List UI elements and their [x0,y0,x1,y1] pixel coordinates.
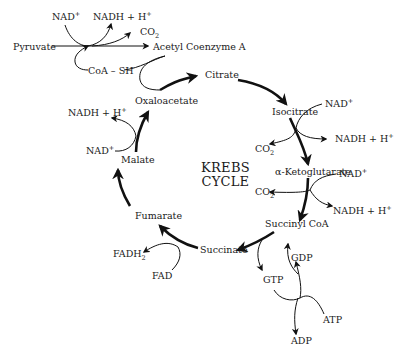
entry-nadh-label: NADH + H+ [93,12,152,22]
akg-side-arrows [270,174,336,206]
gdp-label: GDP [291,253,313,263]
fumarate-to-malate-arrow [118,170,130,206]
fadh2-label: FADH2 [113,249,146,259]
akg-nad-label: NAD+ [339,169,367,179]
adp-label: ADP [291,336,312,346]
succinate-label: Succinate [200,245,248,255]
citrate-to-isocitrate-arrow [238,80,286,104]
entry-co2-label: CO2 [140,27,159,37]
gtp-label: GTP [263,275,283,285]
isocitrate-label: Isocitrate [272,107,318,117]
fad-label: FAD [152,271,172,281]
akg-co2-label: CO2 [255,187,274,197]
title-line-1: KREBS [201,161,250,175]
isocitrate-to-akg-arrow [290,118,308,164]
oxaloacetate-label: Oxaloacetate [135,96,198,106]
coa-sh-label: CoA – SH [88,66,133,76]
isocitrate-nadh-label: NADH + H+ [335,134,394,144]
malate-nad-label: NAD+ [86,146,114,156]
acetyl-coa-label: Acetyl Coenzyme A [153,42,246,52]
succinate-to-fumarate-arrow [160,226,198,248]
akg-nadh-label: NADH + H+ [333,206,392,216]
title-line-2: CYCLE [201,175,250,189]
malate-label: Malate [121,155,155,165]
malate-to-oxaloacetate-arrow [136,112,148,152]
oxaloacetate-to-citrate-arrow [160,76,196,90]
krebs-cycle-title: KREBS CYCLE [201,161,250,190]
pyruvate-label: Pyruvate [13,42,56,52]
entry-nad-label: NAD+ [52,12,80,22]
diagram-arrows [0,0,398,361]
krebs-cycle-diagram: NAD+ NADH + H+ CO2 Pyruvate Acetyl Coenz… [0,0,398,361]
fumarate-label: Fumarate [135,211,182,221]
malate-side-arrows [112,118,136,151]
succinyl-coa-label: Succinyl CoA [265,219,329,229]
akg-to-succinyl-coa-arrow [300,178,308,220]
atp-label: ATP [323,315,342,325]
malate-nadh-label: NADH + H+ [68,108,127,118]
citrate-label: Citrate [205,70,239,80]
isocitrate-nad-label: NAD+ [325,99,353,109]
isocitrate-co2-label: CO2 [255,144,274,154]
fad-side-arrows [144,243,180,270]
